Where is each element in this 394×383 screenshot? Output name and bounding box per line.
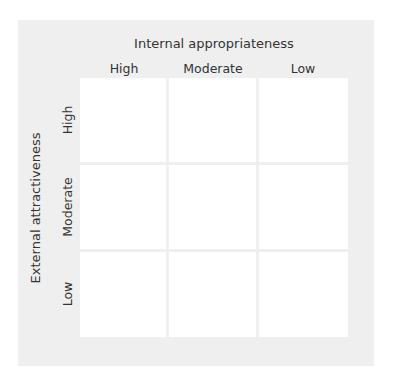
row-label-low-text: Low [60,282,75,307]
cell-low-moderate [169,252,256,337]
cell-moderate-moderate [169,165,256,249]
y-axis-title-text: External attractiveness [28,133,43,284]
cell-moderate-low [259,165,348,249]
cell-moderate-high [80,165,166,249]
column-label-low: Low [259,61,347,76]
cell-high-moderate [169,78,256,162]
column-label-moderate: Moderate [169,61,257,76]
x-axis-title: Internal appropriateness [80,36,348,51]
cell-high-low [259,78,348,162]
cell-high-high [80,78,166,162]
cell-low-low [259,252,348,337]
row-label-moderate-text: Moderate [60,177,75,236]
cell-low-high [80,252,166,337]
row-label-high-text: High [60,106,75,135]
column-label-high: High [80,61,168,76]
